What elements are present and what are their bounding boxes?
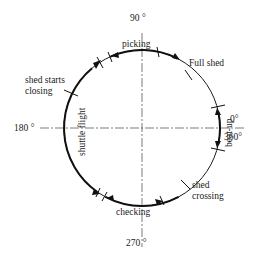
label-beat-up: beat-up (224, 118, 234, 147)
label-270-degrees: 270 ° (126, 238, 147, 248)
label-picking: picking (122, 39, 151, 49)
label-180-degrees: 180 ° (14, 123, 35, 133)
loom-timing-diagram: 90 ° 180 ° 0° 360° 270 ° picking Full sh… (0, 0, 254, 261)
label-checking: checking (116, 207, 151, 217)
beat-up-arc (218, 112, 220, 144)
picking-arc (111, 50, 178, 59)
tick-shed-crossing (181, 180, 190, 189)
tick-beat-up-start (211, 105, 225, 108)
label-shuttle-flight: shuttle flight (77, 107, 87, 156)
tick-full-shed (185, 70, 192, 80)
label-shed-crossing-2: crossing (192, 191, 224, 201)
label-shed-starts-closing-1: shed starts (25, 75, 65, 85)
tick-beat-up-end (211, 148, 225, 151)
label-shed-starts-closing-2: closing (25, 86, 53, 96)
label-90-degrees: 90 ° (130, 13, 146, 23)
arrowhead-picking-right (172, 53, 180, 60)
label-shed-crossing-1: shed (192, 180, 210, 190)
label-full-shed: Full shed (189, 58, 224, 68)
timing-circle-svg: 90 ° 180 ° 0° 360° 270 ° picking Full sh… (0, 0, 254, 261)
